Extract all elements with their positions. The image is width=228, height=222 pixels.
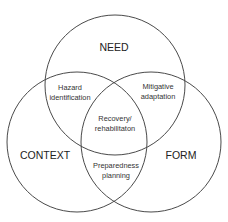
intersection-label-all: rehabilitaton (95, 124, 135, 133)
intersection-label-context-form: Preparedness (93, 161, 139, 170)
intersection-label-context-form: planning (102, 171, 130, 180)
set-label-need: NEED (99, 41, 129, 53)
intersection-label-need-form: Mitigative (142, 82, 173, 91)
intersection-label-need-context: Hazard (58, 83, 82, 92)
set-label-form: FORM (166, 149, 197, 161)
intersection-label-all: Recovery/ (98, 114, 132, 123)
intersection-label-need-context: identification (49, 93, 90, 102)
set-label-context: CONTEXT (20, 149, 71, 161)
intersection-label-need-form: adaptation (141, 92, 176, 101)
venn-diagram: NEEDCONTEXTFORMHazardidentificationMitig… (0, 0, 228, 222)
labels: NEEDCONTEXTFORMHazardidentificationMitig… (20, 41, 197, 180)
